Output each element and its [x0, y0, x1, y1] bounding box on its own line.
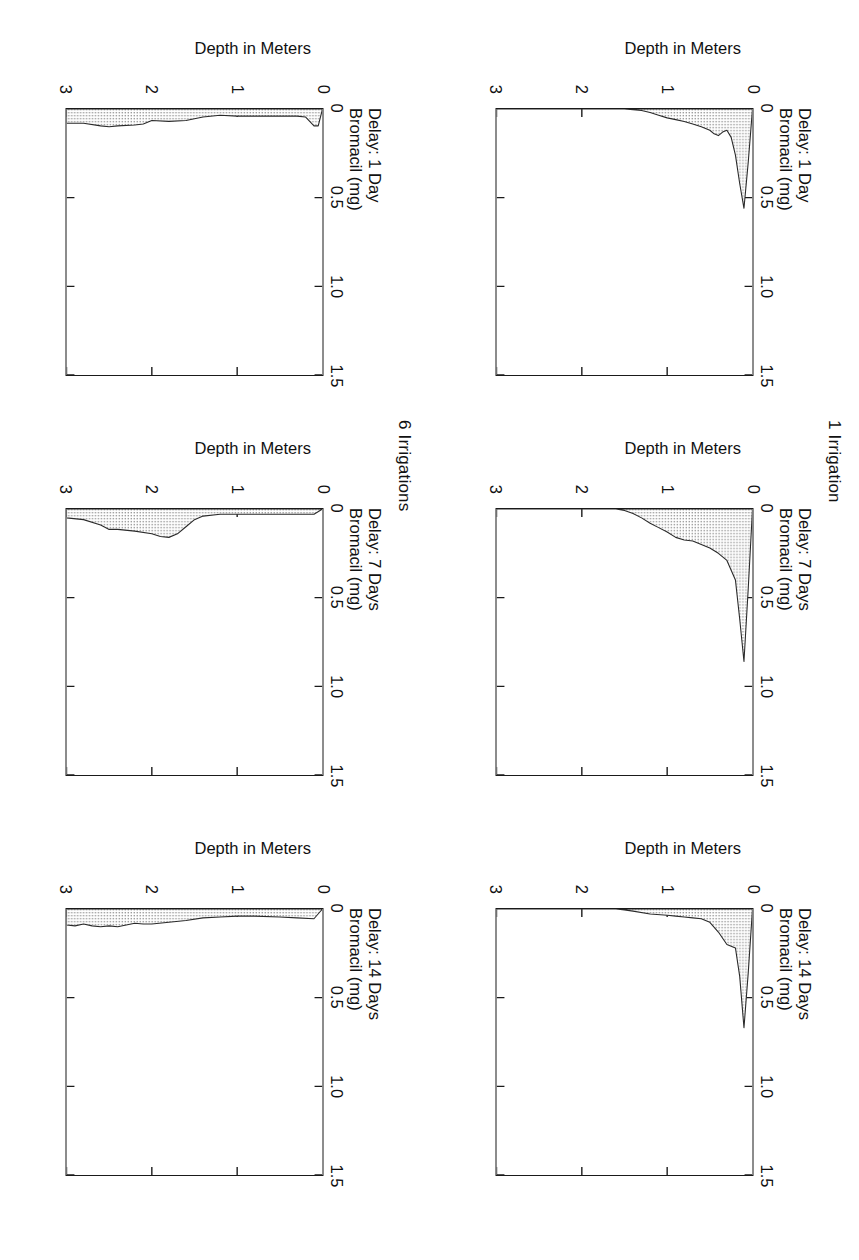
- x-tick-label: 0: [326, 503, 345, 512]
- y-tick-label: 1: [658, 85, 677, 94]
- axis-label-bromacil: Bromacil (mg): [775, 508, 794, 611]
- plot-area: [65, 908, 323, 1176]
- axis-label-bromacil: Bromacil (mg): [775, 908, 794, 1011]
- x-tick-label: 1.5: [326, 765, 345, 788]
- x-tick-label: 1.5: [326, 365, 345, 388]
- plot-area: [65, 508, 323, 776]
- row-header-1-irrigation: 1 Irrigation: [823, 420, 843, 503]
- x-tick-label: 0.5: [326, 586, 345, 609]
- x-tick-label: 0.5: [756, 586, 775, 609]
- y-tick-label: 2: [572, 85, 591, 94]
- x-tick-label: 1.0: [326, 675, 345, 698]
- panel-title: Delay: 14 Days: [364, 908, 383, 1020]
- row-header-6-irrigations: 6 Irrigations: [393, 420, 413, 511]
- y-tick-label: 1: [228, 85, 247, 94]
- profile-area: [66, 109, 322, 127]
- plot-area: [495, 508, 753, 776]
- y-tick-label: 3: [56, 885, 75, 894]
- y-tick-label: 1: [228, 885, 247, 894]
- axis-label-bromacil: Bromacil (mg): [345, 108, 364, 211]
- x-tick-label: 1.0: [326, 275, 345, 298]
- x-tick-label: 1.0: [756, 1075, 775, 1098]
- y-tick-label: 0: [314, 485, 333, 494]
- chart-panel-irr1-delay14: Delay: 14 DaysBromacil (mg)00.51.01.5012…: [463, 830, 815, 1202]
- axis-label-bromacil: Bromacil (mg): [775, 108, 794, 211]
- panel-title: Delay: 1 Day: [364, 108, 383, 202]
- panel-title: Delay: 1 Day: [794, 108, 813, 202]
- chart-panel-irr6-delay14: Delay: 14 DaysBromacil (mg)00.51.01.5012…: [33, 830, 385, 1202]
- figure-caption: [814, 1090, 826, 1093]
- x-tick-label: 0: [756, 503, 775, 512]
- y-tick-label: 1: [658, 885, 677, 894]
- y-tick-label: 2: [572, 485, 591, 494]
- x-tick-label: 0: [326, 903, 345, 912]
- chart-panel-irr6-delay7: Delay: 7 DaysBromacil (mg)00.51.01.50123…: [33, 430, 385, 802]
- y-tick-label: 3: [486, 85, 505, 94]
- plot-area: [65, 108, 323, 376]
- profile-area: [496, 509, 752, 662]
- y-tick-label: 2: [142, 485, 161, 494]
- y-tick-label: 1: [228, 485, 247, 494]
- figure-panel-grid: 1 Irrigation 6 Irrigations Delay: 1 DayB…: [0, 0, 859, 1260]
- x-tick-label: 0.5: [326, 986, 345, 1009]
- y-tick-label: 3: [56, 85, 75, 94]
- profile-area: [66, 509, 322, 537]
- plot-area: [495, 108, 753, 376]
- y-tick-label: 3: [56, 485, 75, 494]
- y-tick-label: 2: [142, 885, 161, 894]
- axis-label-bromacil: Bromacil (mg): [345, 908, 364, 1011]
- x-tick-label: 1.0: [326, 1075, 345, 1098]
- y-tick-label: 0: [744, 85, 763, 94]
- x-tick-label: 1.0: [756, 675, 775, 698]
- chart-panel-irr1-delay1: Delay: 1 DayBromacil (mg)00.51.01.50123D…: [463, 30, 815, 402]
- x-tick-label: 0: [756, 103, 775, 112]
- x-tick-label: 1.5: [756, 365, 775, 388]
- y-tick-label: 3: [486, 485, 505, 494]
- y-tick-label: 0: [744, 885, 763, 894]
- scanned-page: 1 Irrigation 6 Irrigations Delay: 1 DayB…: [0, 0, 859, 1260]
- profile-area: [496, 109, 752, 208]
- plot-area: [495, 908, 753, 1176]
- y-tick-label: 3: [486, 885, 505, 894]
- axis-label-bromacil: Bromacil (mg): [345, 508, 364, 611]
- y-tick-label: 1: [658, 485, 677, 494]
- y-tick-label: 0: [744, 485, 763, 494]
- x-tick-label: 0: [326, 103, 345, 112]
- x-tick-label: 0.5: [756, 186, 775, 209]
- y-tick-label: 2: [572, 885, 591, 894]
- profile-area: [66, 909, 322, 927]
- y-tick-label: 0: [314, 85, 333, 94]
- panel-title: Delay: 7 Days: [794, 508, 813, 611]
- x-tick-label: 0.5: [756, 986, 775, 1009]
- y-tick-label: 0: [314, 885, 333, 894]
- x-tick-label: 1.5: [756, 765, 775, 788]
- x-tick-label: 1.5: [326, 1165, 345, 1188]
- x-tick-label: 1.5: [756, 1165, 775, 1188]
- chart-panel-irr6-delay1: Delay: 1 DayBromacil (mg)00.51.01.50123D…: [33, 30, 385, 402]
- panel-title: Delay: 14 Days: [794, 908, 813, 1020]
- y-tick-label: 2: [142, 85, 161, 94]
- chart-panel-irr1-delay7: Delay: 7 DaysBromacil (mg)00.51.01.50123…: [463, 430, 815, 802]
- x-tick-label: 0.5: [326, 186, 345, 209]
- x-tick-label: 0: [756, 903, 775, 912]
- profile-area: [496, 909, 752, 1028]
- x-tick-label: 1.0: [756, 275, 775, 298]
- panel-title: Delay: 7 Days: [364, 508, 383, 611]
